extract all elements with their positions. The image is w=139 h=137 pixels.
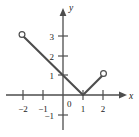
coordinate-plane: −2 −1 1 2 3 2 1 −1 0 x y — [0, 0, 139, 137]
y-tick-label-1: 1 — [50, 71, 55, 81]
y-axis-label: y — [68, 3, 74, 13]
curve-ascending-branch — [83, 75, 103, 95]
x-axis-arrow — [119, 92, 127, 99]
y-tick-label--1: −1 — [44, 111, 54, 121]
open-endpoint-marker-left — [19, 32, 25, 38]
curve-descending-branch — [23, 36, 83, 95]
x-tick-label-2: 2 — [101, 104, 106, 114]
graph-figure: −2 −1 1 2 3 2 1 −1 0 x y — [0, 0, 139, 137]
x-axis — [6, 92, 127, 99]
open-endpoint-marker-right — [101, 71, 107, 77]
x-axis-label: x — [128, 91, 134, 101]
origin-label: 0 — [67, 99, 72, 109]
y-tick-label-2: 2 — [50, 52, 55, 62]
x-tick-label--2: −2 — [18, 104, 28, 114]
y-axis-arrow — [60, 8, 67, 16]
y-tick-label-3: 3 — [50, 32, 55, 42]
y-axis — [60, 8, 67, 130]
x-tick-label-1: 1 — [81, 104, 86, 114]
